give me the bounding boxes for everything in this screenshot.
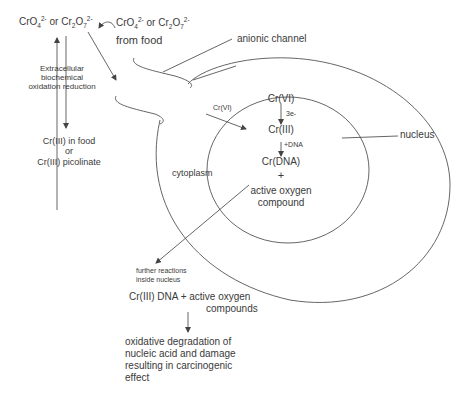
nucleus-label: nucleus bbox=[400, 129, 434, 141]
from-food-label: from food bbox=[116, 34, 162, 47]
channel-lower-lip bbox=[115, 96, 163, 124]
chain-step-cr3: Cr(III) bbox=[256, 124, 306, 136]
chain-step-cr6: Cr(VI) bbox=[256, 93, 306, 105]
top-left-species-label: CrO42- or Cr2O72- bbox=[19, 16, 93, 28]
chain-step-crdna: Cr(DNA) bbox=[248, 156, 314, 168]
further-reactions-label: further reactions inside nucleus bbox=[136, 266, 187, 284]
cr3-food-label: Cr(III) in food or Cr(III) picolinate bbox=[28, 136, 110, 167]
product-label: Cr(III) DNA + active oxygen compounds bbox=[129, 291, 258, 314]
chain-arrow-3e-label: 3e- bbox=[286, 110, 296, 118]
chain-step-active-oxygen: active oxygen compound bbox=[243, 185, 319, 208]
cytoplasm-label: cytoplasm bbox=[172, 168, 213, 178]
chain-arrow-dna-label: +DNA bbox=[284, 141, 303, 149]
chain-plus: + bbox=[271, 169, 291, 182]
extracellular-process-label: Extracellular biochemical oxidation redu… bbox=[22, 64, 102, 92]
outcome-label: oxidative degradation of nucleic acid an… bbox=[125, 336, 236, 384]
cr6-entry-label: Cr(VI) bbox=[213, 104, 232, 112]
anionic-channel-label: anionic channel bbox=[237, 33, 307, 45]
food-species-label: CrO42- or Cr2O72- bbox=[116, 17, 190, 29]
